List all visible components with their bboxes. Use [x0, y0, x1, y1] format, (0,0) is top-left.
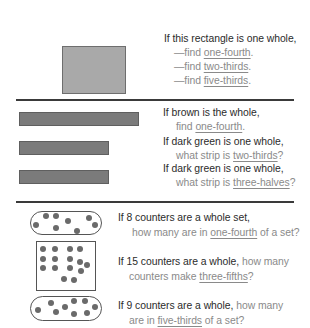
question-line2: counters make three-fifths?	[129, 271, 254, 283]
fraction-term: three-halves	[233, 177, 290, 188]
dark-green-strip	[19, 170, 109, 184]
counter-dot	[71, 311, 77, 317]
fraction-term: two-thirds	[233, 150, 278, 161]
fraction-term: five-thirds	[158, 315, 203, 326]
dark-green-strip	[19, 141, 109, 155]
question-prefix: what strip is	[176, 150, 233, 161]
counter-dot	[61, 276, 67, 282]
section1-item-1: —find one-fourth.	[174, 47, 253, 59]
question-suffix: of a set?	[202, 315, 244, 326]
question-prefix: what strip is	[176, 177, 233, 188]
section-divider	[16, 99, 294, 101]
whole-rectangle	[62, 46, 126, 94]
counter-dot	[74, 228, 80, 234]
fraction-term: five-thirds	[204, 75, 249, 86]
question-line2: how many are in one-fourth of a set?	[132, 227, 299, 239]
question-prefix: counters make	[129, 271, 199, 282]
question-prefix: are in	[129, 315, 158, 326]
question-line2: what strip is three-halves?	[176, 177, 295, 189]
brown-strip	[19, 112, 139, 126]
question-light-text: how many	[233, 300, 283, 311]
counter-dot	[40, 256, 46, 262]
counter-dot	[40, 265, 46, 271]
counter-dot	[84, 310, 90, 316]
question-prefix: how many are in	[132, 227, 210, 238]
fraction-term: three-fifths	[199, 271, 248, 282]
fraction-term: two-thirds	[204, 61, 249, 72]
counter-dot	[35, 307, 41, 313]
question-dark-text: If 8 counters are a whole set,	[118, 212, 250, 223]
counter-dot	[67, 246, 73, 252]
item-suffix: .	[251, 47, 254, 58]
question-suffix: ?	[278, 150, 284, 161]
counter-dot	[53, 309, 59, 315]
counter-dot	[48, 300, 54, 306]
counter-dot	[43, 213, 49, 219]
counter-dot	[77, 246, 83, 252]
counter-dot	[86, 215, 92, 221]
counter-dot	[71, 277, 77, 283]
question-dark-text: If 9 counters are a whole,	[118, 300, 233, 311]
counter-dot	[67, 265, 73, 271]
counter-dot	[53, 225, 59, 231]
question-line1: If dark green is one whole,	[163, 163, 284, 175]
question-light-text: how many	[239, 256, 289, 267]
fraction-term: one-fourth	[195, 121, 242, 132]
counter-dot	[92, 222, 98, 228]
counter-dot	[84, 262, 90, 268]
section-divider	[16, 201, 294, 203]
question-line2: are in five-thirds of a set?	[129, 315, 244, 327]
counter-dot	[71, 298, 77, 304]
fraction-term: one-fourth	[204, 47, 251, 58]
counter-dot	[78, 268, 84, 274]
section1-item-2: —find two-thirds.	[174, 61, 251, 73]
counter-dot	[82, 298, 88, 304]
question-line1: If brown is the whole,	[163, 107, 260, 119]
question-line1: If 9 counters are a whole, how many	[118, 300, 283, 312]
counter-dot	[77, 259, 83, 265]
question-suffix: ?	[248, 271, 254, 282]
item-prefix: —find	[174, 75, 204, 86]
question-prefix: find	[176, 121, 195, 132]
counter-dot	[52, 256, 58, 262]
counter-dot	[62, 304, 68, 310]
question-line2: find one-fourth.	[176, 121, 245, 133]
question-suffix: of a set?	[257, 227, 299, 238]
question-dark-text: If 15 counters are a whole,	[118, 256, 239, 267]
counter-dot	[40, 246, 46, 252]
counter-dot	[92, 304, 98, 310]
section1-prompt: If this rectangle is one whole,	[164, 33, 296, 45]
counter-dot	[33, 222, 39, 228]
section1-item-3: —find five-thirds.	[174, 75, 251, 87]
counter-dot	[52, 246, 58, 252]
item-prefix: —find	[174, 61, 204, 72]
counter-dot	[65, 218, 71, 224]
fraction-term: one-fourth	[210, 227, 257, 238]
item-suffix: .	[248, 61, 251, 72]
item-suffix: .	[248, 75, 251, 86]
question-line1: If 8 counters are a whole set,	[118, 212, 250, 224]
counter-dot	[53, 213, 59, 219]
counter-dot	[52, 265, 58, 271]
question-suffix: ?	[290, 177, 296, 188]
question-suffix: .	[242, 121, 245, 132]
item-prefix: —find	[174, 47, 204, 58]
question-line1: If 15 counters are a whole, how many	[118, 256, 289, 268]
counter-dot	[67, 256, 73, 262]
question-line1: If dark green is one whole,	[163, 136, 284, 148]
question-line2: what strip is two-thirds?	[176, 150, 283, 162]
